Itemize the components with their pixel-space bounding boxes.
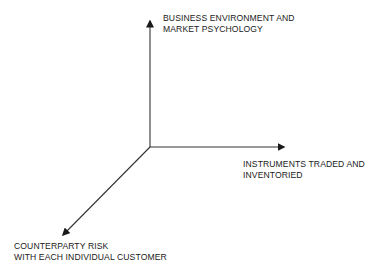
label-line: INSTRUMENTS TRADED AND: [243, 159, 365, 170]
label-line: MARKET PSYCHOLOGY: [163, 24, 295, 35]
business-environment-label: BUSINESS ENVIRONMENT AND MARKET PSYCHOLO…: [163, 13, 295, 35]
counterparty-risk-label: COUNTERPARTY RISK WITH EACH INDIVIDUAL C…: [14, 241, 167, 263]
label-line: WITH EACH INDIVIDUAL CUSTOMER: [14, 252, 167, 263]
instruments-traded-label: INSTRUMENTS TRADED AND INVENTORIED: [243, 159, 365, 181]
three-axis-diagram: BUSINESS ENVIRONMENT AND MARKET PSYCHOLO…: [0, 0, 380, 274]
label-line: INVENTORIED: [243, 170, 365, 181]
label-line: BUSINESS ENVIRONMENT AND: [163, 13, 295, 24]
diagonal-axis-arrow: [63, 147, 150, 235]
label-line: COUNTERPARTY RISK: [14, 241, 167, 252]
axes-graphic: [0, 0, 380, 274]
